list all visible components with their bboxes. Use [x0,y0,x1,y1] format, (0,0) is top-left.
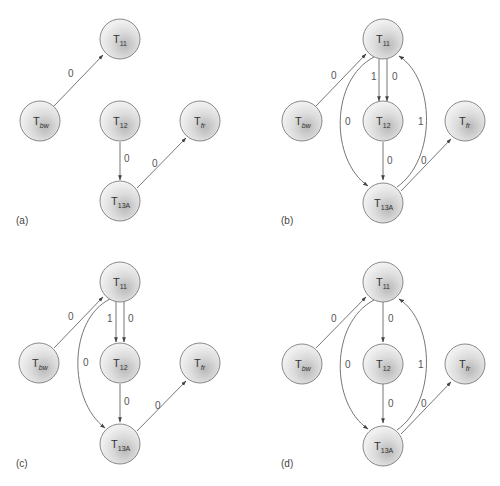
edge-weight: 0 [345,359,351,370]
panel-label: (a) [16,215,28,226]
edge-weight: 0 [421,398,427,409]
node-tfr: Tfr [180,101,220,141]
edge-weight: 1 [418,359,424,370]
edge-weight: 0 [128,313,134,324]
edge-weight: 1 [418,116,424,127]
edge-weight: 0 [152,158,158,169]
node-tfr: Tfr [445,344,485,384]
edge-tbw-t11 [54,297,103,348]
edge-weight: 0 [155,400,161,411]
panel-d: 0 0 0 1 0 0 T11 Tbw T12 Tfr T13A [281,262,485,469]
edge-weight: 0 [392,71,398,82]
node-t11: T11 [363,262,403,302]
panel-a: 0 0 0 T11 Tbw T12 Tfr T13A (a) [16,19,220,226]
edge-weight: 1 [371,71,377,82]
node-tfr: Tfr [180,343,220,383]
node-t11: T11 [100,19,140,59]
edge-weight: 1 [107,313,113,324]
edge-weight: 0 [388,313,394,324]
node-tbw: Tbw [19,343,59,383]
panel-label: (b) [281,215,293,226]
node-t12: T12 [363,344,403,384]
node-t12: T12 [363,101,403,141]
node-t13a: T13A [100,181,140,221]
panel-label: (c) [16,458,28,469]
node-t11: T11 [363,19,403,59]
panel-label: (d) [281,458,293,469]
node-tfr: Tfr [445,101,485,141]
edge-tbw-t11 [316,54,366,106]
diagram-canvas: 0 0 0 T11 Tbw T12 Tfr T13A (a) 0 [0,0,500,486]
node-tbw: Tbw [282,344,322,384]
node-t11: T11 [100,262,140,302]
edge-weight: 0 [68,311,74,322]
node-t13a: T13A [100,424,140,464]
edge-weight: 0 [345,116,351,127]
node-tbw: Tbw [282,101,322,141]
edge-weight: 0 [331,313,337,324]
node-t12: T12 [100,343,140,383]
panel-c: 0 1 0 0 0 0 T11 Tbw T12 Tfr T13A [16,262,220,469]
node-t13a: T13A [363,183,403,223]
edge-t13a-tfr [137,138,186,188]
edge-weight: 0 [331,70,337,81]
edge-tbw-t11 [54,55,103,106]
panel-b: 0 1 0 0 1 0 0 T11 Tbw T12 Tfr [281,19,485,226]
edge-weight: 0 [421,155,427,166]
node-t13a: T13A [363,426,403,466]
edge-tbw-t11 [316,297,366,348]
edge-weight: 0 [68,68,74,79]
node-t12: T12 [100,101,140,141]
edge-weight: 0 [388,398,394,409]
edge-t13a-tfr [137,381,186,431]
edge-weight: 0 [124,153,130,164]
edge-weight: 0 [124,396,130,407]
node-tbw: Tbw [20,101,60,141]
edge-weight: 0 [387,155,393,166]
edge-weight: 0 [83,357,89,368]
